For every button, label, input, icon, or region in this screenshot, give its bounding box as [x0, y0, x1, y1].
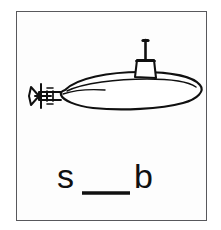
word-puzzle: s b	[17, 148, 206, 208]
submarine-line-art	[17, 12, 206, 132]
worksheet-card: s b	[0, 0, 221, 230]
fill-in-the-blank: s b	[17, 148, 206, 208]
submarine-illustration	[17, 12, 206, 132]
submarine-conning-tower	[135, 60, 156, 78]
puzzle-first-letter: s	[57, 157, 74, 195]
puzzle-last-letter: b	[134, 157, 153, 195]
